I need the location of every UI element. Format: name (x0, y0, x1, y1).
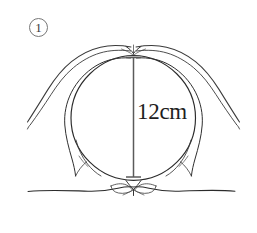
figure-illustration: 1 12cm (0, 0, 257, 233)
dimension-label: 12cm (137, 99, 187, 125)
figure-number-badge: 1 (29, 18, 48, 37)
figure-number-text: 1 (35, 21, 42, 34)
left-hand-outline (28, 46, 132, 176)
